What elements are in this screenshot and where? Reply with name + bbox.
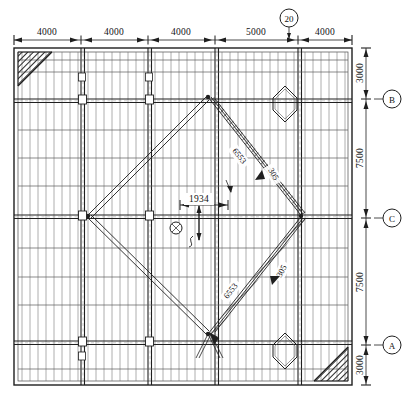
dim-right-2: 7500 [355, 148, 365, 168]
drawing-canvas: 4000 4000 4000 5000 4000 20 [0, 0, 412, 408]
dim-right-3: 7500 [355, 272, 365, 292]
bubble-top-20-label: 20 [285, 14, 295, 24]
center-offset-dimension-label: 1934 [189, 194, 209, 204]
dim-top-2: 4000 [104, 27, 124, 37]
bubble-right-b-label: B [389, 95, 395, 105]
dim-top-4: 5000 [246, 27, 266, 37]
dim-right-4: 3000 [355, 355, 365, 375]
framing-plan-svg: 4000 4000 4000 5000 4000 20 [0, 0, 412, 408]
bubble-right-c-label: C [389, 214, 395, 224]
bubble-right-a-label: A [389, 341, 396, 351]
dim-top-1: 4000 [37, 27, 57, 37]
dim-top-3: 4000 [171, 27, 191, 37]
dim-top-5: 4000 [315, 27, 335, 37]
dim-right-1: 3000 [355, 63, 365, 83]
center-node-callout[interactable] [170, 222, 182, 234]
